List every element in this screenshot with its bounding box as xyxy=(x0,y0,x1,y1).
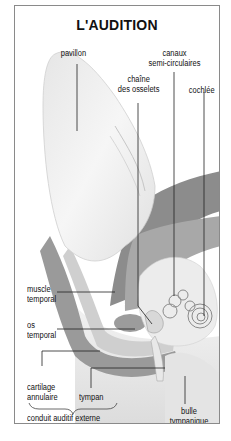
label-muscle-temporal: muscle temporal xyxy=(27,284,56,304)
page-title: L'AUDITION xyxy=(15,17,219,33)
label-pavillon: pavillon xyxy=(61,48,86,58)
label-os-temporal: os temporal xyxy=(27,320,56,340)
inner-ear-region xyxy=(138,257,217,346)
ear-anatomy-illustration xyxy=(15,6,220,424)
label-chaine-osselets: chaîne des osselets xyxy=(118,74,160,94)
label-canaux: canaux semi-circulaires xyxy=(149,48,201,68)
label-bulle-tympanique: bulle tympanique xyxy=(170,406,209,424)
label-cartilage-annulaire: cartilage annulaire xyxy=(27,382,58,402)
label-conduit-auditif-externe: conduit auditif externe xyxy=(27,413,100,423)
diagram-frame: L'AUDITION pavillon canaux semi-circulai… xyxy=(14,5,220,424)
label-tympan: tympan xyxy=(79,392,104,402)
label-cochlee: cochlée xyxy=(189,85,215,95)
